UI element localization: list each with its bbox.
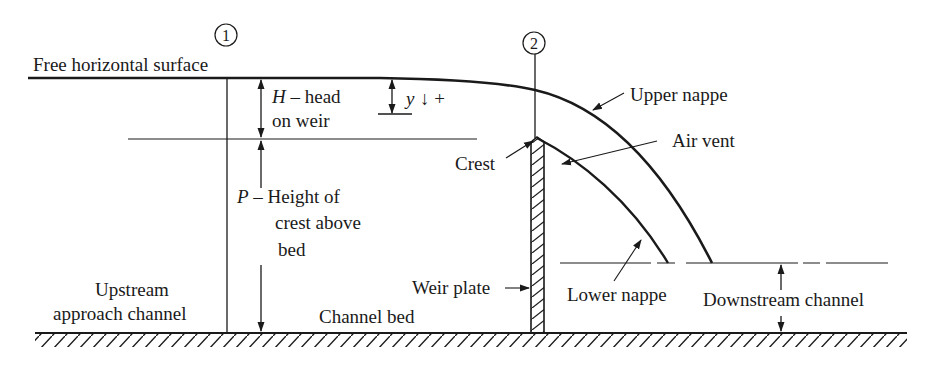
y-direction: ↓ + (420, 88, 445, 109)
y-symbol: y (404, 88, 415, 109)
lower-nappe-label: Lower nappe (567, 284, 667, 305)
head-label-line2: on weir (272, 110, 330, 131)
crest-label: Crest (455, 153, 496, 174)
head-label-line1: H – head (271, 86, 341, 107)
p-label-line3: bed (278, 239, 306, 260)
weir-plate (531, 137, 544, 333)
section-2-label: 2 (530, 35, 538, 52)
section-1-label: 1 (222, 27, 230, 44)
upper-nappe-label: Upper nappe (630, 84, 728, 105)
weir-diagram: 1 2 Free horizontal surface (0, 0, 939, 369)
weir-plate-label: Weir plate (412, 277, 490, 298)
upstream-label-line1: Upstream (95, 279, 169, 300)
head-symbol: H (271, 86, 287, 107)
upstream-label-line2: approach channel (53, 303, 186, 324)
downstream-channel-label: Downstream channel (703, 289, 864, 310)
free-surface-upper-nappe (28, 78, 712, 263)
p-symbol: P (236, 186, 249, 207)
p-text: – Height of (249, 186, 341, 207)
air-vent-label: Air vent (672, 130, 736, 151)
channel-bed-label: Channel bed (319, 306, 415, 327)
lower-nappe-leader-arrow (614, 240, 641, 281)
section-2-marker: 2 (523, 32, 545, 138)
p-label-line2: crest above (275, 212, 361, 233)
head-text: – head (286, 86, 341, 107)
section-1-marker: 1 (215, 24, 237, 333)
crest-leader-arrow (506, 141, 533, 158)
channel-bed (35, 333, 907, 347)
air-vent-leader-arrow (562, 141, 657, 164)
upper-nappe-leader-arrow (593, 93, 624, 110)
lower-nappe-curve (537, 138, 668, 263)
free-surface-label: Free horizontal surface (33, 54, 208, 75)
p-label-line1: P – Height of (236, 186, 341, 207)
